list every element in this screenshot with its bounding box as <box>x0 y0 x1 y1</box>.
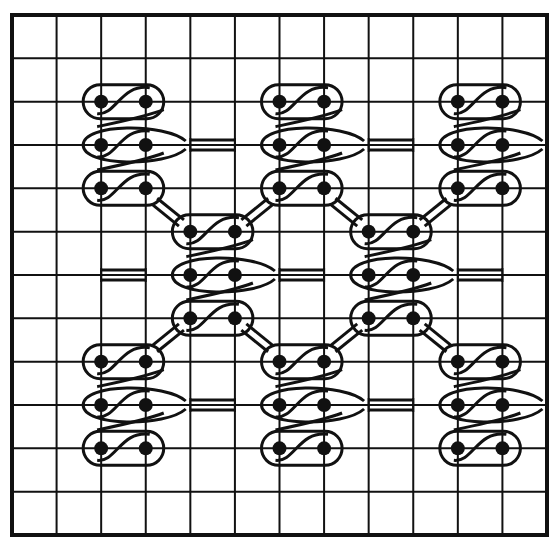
node-dot <box>183 311 197 325</box>
node-dot <box>228 268 242 282</box>
node-dot <box>406 268 420 282</box>
node-dot <box>495 441 509 455</box>
node-dot <box>273 181 287 195</box>
node-dot <box>317 398 331 412</box>
node-dot <box>451 441 465 455</box>
node-dot <box>317 95 331 109</box>
node-dot <box>139 138 153 152</box>
node-dot <box>317 181 331 195</box>
node-dot <box>406 311 420 325</box>
node-dot <box>451 95 465 109</box>
node-dot <box>451 355 465 369</box>
node-dot <box>94 355 108 369</box>
node-dot <box>495 398 509 412</box>
node-dot <box>362 311 376 325</box>
node-dot <box>451 398 465 412</box>
node-dot <box>183 268 197 282</box>
node-dot <box>273 398 287 412</box>
knot-diagram-figure <box>0 0 559 543</box>
node-dot <box>317 138 331 152</box>
node-dot <box>94 441 108 455</box>
node-dot <box>139 181 153 195</box>
node-dot <box>94 398 108 412</box>
node-dot <box>228 225 242 239</box>
node-dot <box>495 181 509 195</box>
node-dot <box>273 138 287 152</box>
node-dot <box>317 441 331 455</box>
node-dot <box>273 441 287 455</box>
node-dot <box>228 311 242 325</box>
node-dot <box>94 181 108 195</box>
node-dot <box>183 225 197 239</box>
node-dot <box>451 181 465 195</box>
node-dot <box>362 225 376 239</box>
node-dot <box>94 95 108 109</box>
node-dot <box>495 138 509 152</box>
node-dot <box>362 268 376 282</box>
node-dot <box>139 95 153 109</box>
node-dot <box>451 138 465 152</box>
node-dot <box>406 225 420 239</box>
node-dot <box>273 355 287 369</box>
node-dot <box>273 95 287 109</box>
node-dot <box>495 95 509 109</box>
node-dot <box>94 138 108 152</box>
node-dot <box>139 441 153 455</box>
node-dot <box>139 398 153 412</box>
node-dot <box>317 355 331 369</box>
node-dot <box>495 355 509 369</box>
node-dot <box>139 355 153 369</box>
